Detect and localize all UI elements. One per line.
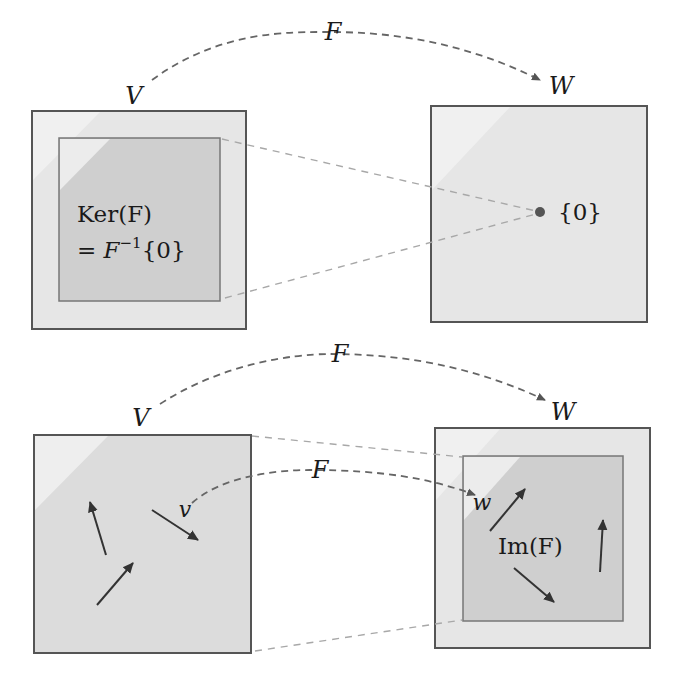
- image-projection-line-top: [252, 436, 462, 457]
- map-f-label-bottom: F: [331, 340, 350, 368]
- domain-v-label-bottom: V: [132, 404, 152, 432]
- map-f-label-vector: F: [311, 456, 330, 484]
- map-f-label-top: F: [324, 18, 343, 46]
- map-f-arc-top: [152, 32, 540, 80]
- kernel-image-diagram: F V W Ker(F) = F−1{0} {0}: [0, 0, 676, 682]
- zero-label: {0}: [558, 199, 602, 225]
- vector-w-label: w: [473, 490, 492, 515]
- codomain-w-label-bottom: W: [551, 398, 578, 426]
- zero-point-dot: [535, 207, 545, 217]
- kernel-preimage-sup: −1: [120, 234, 142, 252]
- domain-space-v-box-bottom: [34, 435, 251, 653]
- domain-v-label-top: V: [125, 82, 145, 110]
- kernel-preimage-suffix: {0}: [142, 237, 186, 263]
- vector-v-label: v: [179, 497, 192, 522]
- top-row-kernel: F V W Ker(F) = F−1{0} {0}: [32, 18, 647, 329]
- image-label: Im(F): [498, 533, 563, 559]
- kernel-preimage-prefix: = F: [77, 237, 121, 263]
- bottom-row-image: F V W F v w Im(F): [34, 340, 650, 653]
- codomain-w-label-top: W: [549, 72, 576, 100]
- map-f-arc-bottom: [160, 354, 545, 404]
- image-projection-line-bottom: [255, 620, 462, 651]
- kernel-label: Ker(F): [77, 201, 152, 227]
